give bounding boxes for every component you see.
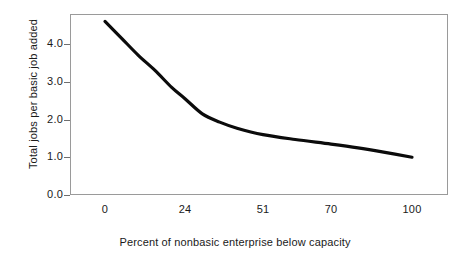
y-tick-mark [64, 157, 70, 158]
x-tick-label-51: 51 [243, 203, 283, 215]
y-tick-mark [64, 195, 70, 196]
x-tick-label-70: 70 [311, 203, 351, 215]
x-tick-label-0: 0 [85, 203, 125, 215]
y-tick-label-0: 0.0 [33, 189, 63, 200]
data-line-series [105, 21, 412, 157]
y-tick-mark [64, 82, 70, 83]
y-tick-mark [64, 44, 70, 45]
chart-figure: 4.0 3.0 2.0 1.0 0.0 0 24 51 70 100 Total… [0, 0, 470, 256]
plot-canvas [70, 14, 448, 195]
x-tick-label-24: 24 [165, 203, 205, 215]
x-tick-label-100: 100 [392, 203, 432, 215]
x-axis-title: Percent of nonbasic enterprise below cap… [0, 236, 470, 248]
y-tick-mark [64, 120, 70, 121]
y-axis-title: Total jobs per basic job added [27, 0, 39, 189]
